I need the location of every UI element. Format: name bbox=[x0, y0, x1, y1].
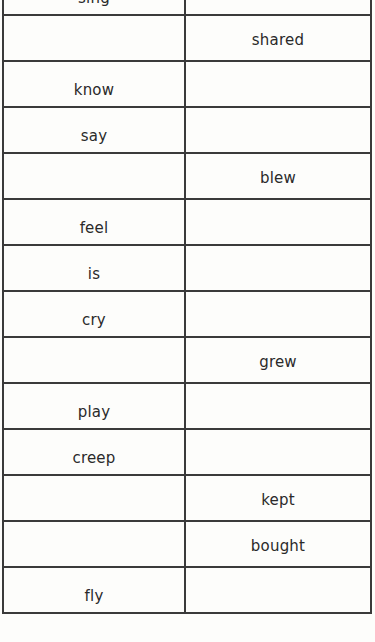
present-tense-cell[interactable]: feel bbox=[3, 199, 185, 245]
present-tense-cell[interactable] bbox=[3, 153, 185, 199]
cell-text: is bbox=[88, 265, 100, 283]
cell-text: fly bbox=[85, 587, 104, 605]
table-row: shared bbox=[3, 15, 371, 61]
table-row: cry bbox=[3, 291, 371, 337]
present-tense-cell[interactable]: know bbox=[3, 61, 185, 107]
cell-text: shared bbox=[252, 31, 304, 49]
past-tense-cell[interactable] bbox=[185, 0, 371, 15]
cell-text: know bbox=[74, 81, 114, 99]
cell-text: feel bbox=[80, 219, 109, 237]
past-tense-cell[interactable]: blew bbox=[185, 153, 371, 199]
cell-text: creep bbox=[72, 449, 115, 467]
table-row: know bbox=[3, 61, 371, 107]
past-tense-cell[interactable] bbox=[185, 429, 371, 475]
past-tense-cell[interactable] bbox=[185, 291, 371, 337]
present-tense-cell[interactable]: creep bbox=[3, 429, 185, 475]
present-tense-cell[interactable]: cry bbox=[3, 291, 185, 337]
verb-table: sing shared know say blew feel bbox=[2, 0, 372, 614]
present-tense-cell[interactable] bbox=[3, 521, 185, 567]
table-row: play bbox=[3, 383, 371, 429]
present-tense-cell[interactable] bbox=[3, 337, 185, 383]
cell-text: blew bbox=[260, 169, 296, 187]
past-tense-cell[interactable] bbox=[185, 383, 371, 429]
present-tense-cell[interactable]: fly bbox=[3, 567, 185, 613]
table-row: kept bbox=[3, 475, 371, 521]
cell-text: bought bbox=[251, 537, 305, 555]
present-tense-cell[interactable]: say bbox=[3, 107, 185, 153]
past-tense-cell[interactable] bbox=[185, 245, 371, 291]
cell-text: cry bbox=[82, 311, 106, 329]
past-tense-cell[interactable] bbox=[185, 61, 371, 107]
table-row: is bbox=[3, 245, 371, 291]
past-tense-cell[interactable] bbox=[185, 107, 371, 153]
present-tense-cell[interactable] bbox=[3, 475, 185, 521]
verb-tense-worksheet: sing shared know say blew feel bbox=[2, 0, 370, 614]
past-tense-cell[interactable]: kept bbox=[185, 475, 371, 521]
present-tense-cell[interactable]: sing bbox=[3, 0, 185, 15]
past-tense-cell[interactable]: grew bbox=[185, 337, 371, 383]
cell-text: say bbox=[81, 127, 107, 145]
cell-text: grew bbox=[259, 353, 297, 371]
past-tense-cell[interactable]: shared bbox=[185, 15, 371, 61]
past-tense-cell[interactable] bbox=[185, 567, 371, 613]
table-row: bought bbox=[3, 521, 371, 567]
table-row: creep bbox=[3, 429, 371, 475]
past-tense-cell[interactable] bbox=[185, 199, 371, 245]
table-row: grew bbox=[3, 337, 371, 383]
present-tense-cell[interactable]: is bbox=[3, 245, 185, 291]
present-tense-cell[interactable] bbox=[3, 15, 185, 61]
past-tense-cell[interactable]: bought bbox=[185, 521, 371, 567]
table-row: fly bbox=[3, 567, 371, 613]
table-row: feel bbox=[3, 199, 371, 245]
table-row: blew bbox=[3, 153, 371, 199]
cell-text: sing bbox=[78, 0, 110, 7]
present-tense-cell[interactable]: play bbox=[3, 383, 185, 429]
table-row: sing bbox=[3, 0, 371, 15]
table-row: say bbox=[3, 107, 371, 153]
cell-text: play bbox=[78, 403, 111, 421]
cell-text: kept bbox=[261, 491, 295, 509]
